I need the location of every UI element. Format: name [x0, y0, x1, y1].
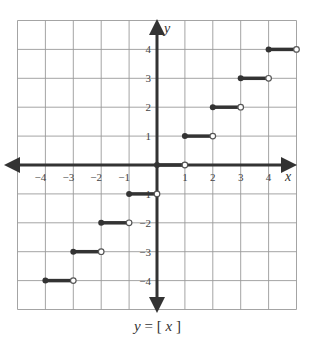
- x-axis-label: x: [284, 169, 292, 184]
- caption-open-bracket: [: [157, 318, 162, 334]
- x-tick-label: 1: [182, 171, 188, 183]
- y-tick-label: −4: [139, 275, 151, 287]
- y-tick-label: −3: [139, 246, 151, 258]
- open-endpoint: [71, 278, 77, 284]
- x-tick-label: 3: [238, 171, 244, 183]
- x-tick-label: −4: [35, 171, 47, 183]
- y-tick-label: 1: [146, 130, 152, 142]
- open-endpoint: [266, 76, 272, 82]
- y-tick-label: 2: [146, 101, 152, 113]
- closed-endpoint: [42, 278, 48, 284]
- x-tick-label: −2: [90, 171, 102, 183]
- open-endpoint: [210, 133, 216, 139]
- closed-endpoint: [98, 220, 104, 226]
- x-axis-left-arrow-icon: [4, 157, 20, 173]
- open-endpoint: [98, 249, 104, 255]
- function-caption: y = [ x ]: [0, 318, 315, 335]
- closed-endpoint: [182, 133, 188, 139]
- closed-endpoint: [126, 191, 132, 197]
- y-tick-label: 3: [146, 72, 152, 84]
- open-endpoint: [238, 104, 244, 110]
- step-function-chart: y x −4−3−2−112344321−1−2−3−4: [0, 0, 315, 353]
- y-axis-up-arrow-icon: [149, 19, 165, 35]
- y-axis-down-arrow-icon: [149, 297, 165, 313]
- caption-eq: =: [145, 318, 153, 334]
- y-tick-label: 4: [146, 43, 152, 55]
- x-tick-label: −1: [118, 171, 130, 183]
- x-tick-label: 2: [210, 171, 216, 183]
- caption-close-bracket: ]: [176, 318, 181, 334]
- open-endpoint: [182, 162, 188, 168]
- y-tick-label: −2: [139, 217, 151, 229]
- closed-endpoint: [238, 75, 244, 81]
- x-tick-label: −3: [62, 171, 74, 183]
- axes: y x: [4, 19, 297, 313]
- y-axis-label: y: [162, 21, 171, 36]
- x-tick-label: 4: [266, 171, 272, 183]
- open-endpoint: [154, 191, 160, 197]
- caption-var: x: [165, 318, 172, 334]
- closed-endpoint: [266, 46, 272, 52]
- closed-endpoint: [154, 162, 160, 168]
- open-endpoint: [126, 220, 132, 226]
- caption-lhs: y: [134, 318, 141, 334]
- closed-endpoint: [70, 249, 76, 255]
- open-endpoint: [294, 47, 300, 53]
- closed-endpoint: [210, 104, 216, 110]
